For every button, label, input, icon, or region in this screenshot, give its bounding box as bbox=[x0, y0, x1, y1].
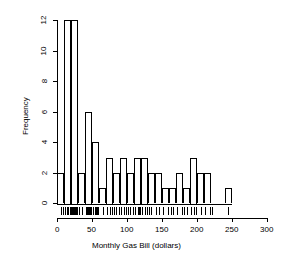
y-tick-10 bbox=[53, 51, 57, 52]
rug-tick bbox=[149, 207, 150, 215]
histogram-bar bbox=[162, 188, 169, 203]
rug-tick bbox=[228, 207, 229, 215]
x-axis-title: Monthly Gas Bill (dollars) bbox=[92, 242, 181, 250]
histogram-bar bbox=[64, 20, 71, 204]
rug-tick bbox=[210, 207, 211, 215]
histogram-bar bbox=[183, 188, 190, 203]
histogram-bar bbox=[197, 173, 204, 204]
histogram-bar bbox=[190, 158, 197, 204]
rug-tick bbox=[168, 207, 169, 215]
x-tick-label-300: 300 bbox=[260, 226, 273, 234]
histogram-bar bbox=[99, 188, 106, 203]
rug-tick bbox=[116, 207, 117, 215]
rug-tick bbox=[196, 207, 197, 215]
rug-tick bbox=[135, 207, 136, 215]
histogram-bar bbox=[127, 173, 134, 204]
rug-tick bbox=[205, 207, 206, 215]
x-tick-300 bbox=[267, 218, 268, 222]
rug-tick bbox=[151, 207, 152, 215]
rug-tick bbox=[79, 207, 80, 215]
histogram-bar bbox=[169, 188, 176, 203]
y-tick-label-8: 8 bbox=[41, 79, 49, 83]
rug-tick bbox=[182, 207, 183, 215]
histogram-bar bbox=[155, 173, 162, 204]
rug-tick bbox=[142, 207, 143, 215]
rug-tick bbox=[110, 207, 111, 215]
x-tick-label-150: 150 bbox=[155, 226, 168, 234]
histogram-bar bbox=[204, 173, 211, 204]
histogram-bar bbox=[120, 158, 127, 204]
y-tick-label-10: 10 bbox=[40, 47, 48, 56]
x-tick-label-100: 100 bbox=[120, 226, 133, 234]
x-tick-label-200: 200 bbox=[190, 226, 203, 234]
histogram-bar bbox=[225, 188, 232, 203]
x-tick-label-0: 0 bbox=[55, 226, 59, 234]
x-tick-label-50: 50 bbox=[87, 226, 96, 234]
rug-tick bbox=[133, 207, 134, 215]
histogram-bar bbox=[92, 142, 99, 203]
rug-tick bbox=[159, 207, 160, 215]
rug-tick bbox=[171, 207, 172, 215]
rug-tick bbox=[61, 207, 62, 215]
y-axis-title: Frequency bbox=[22, 97, 30, 135]
rug-tick bbox=[128, 207, 129, 215]
y-tick-label-2: 2 bbox=[41, 171, 49, 175]
rug-tick bbox=[91, 207, 92, 215]
rug-tick bbox=[156, 207, 157, 215]
y-tick-6 bbox=[53, 112, 57, 113]
x-tick-label-250: 250 bbox=[225, 226, 238, 234]
x-tick-50 bbox=[92, 218, 93, 222]
rug-tick bbox=[191, 207, 192, 215]
rug-tick bbox=[112, 207, 113, 215]
histogram-bar bbox=[85, 112, 92, 204]
rug-tick bbox=[184, 207, 185, 215]
histogram-bar bbox=[134, 158, 141, 204]
rug-tick bbox=[145, 207, 146, 215]
rug-tick bbox=[119, 207, 120, 215]
y-tick-label-6: 6 bbox=[41, 110, 49, 114]
y-tick-8 bbox=[53, 81, 57, 82]
rug-tick bbox=[107, 207, 108, 215]
x-tick-100 bbox=[127, 218, 128, 222]
rug-tick bbox=[194, 207, 195, 215]
histogram-bar bbox=[148, 173, 155, 204]
rug-tick bbox=[121, 207, 122, 215]
histogram-baseline bbox=[57, 204, 232, 205]
rug-tick bbox=[126, 207, 127, 215]
rug-tick bbox=[187, 207, 188, 215]
rug-tick bbox=[201, 207, 202, 215]
rug-tick bbox=[98, 207, 99, 215]
y-tick-label-12: 12 bbox=[40, 16, 48, 25]
y-tick-4 bbox=[53, 142, 57, 143]
rug-tick bbox=[163, 207, 164, 215]
histogram-chart: 0 2 4 6 8 10 12 Frequency 0 50 100 150 2… bbox=[0, 0, 285, 262]
histogram-bar bbox=[176, 173, 183, 204]
histogram-bar bbox=[113, 173, 120, 204]
x-tick-200 bbox=[197, 218, 198, 222]
rug-tick bbox=[63, 207, 64, 215]
rug-tick bbox=[130, 207, 131, 215]
rug-tick bbox=[147, 207, 148, 215]
rug-tick bbox=[103, 207, 104, 215]
x-tick-0 bbox=[57, 218, 58, 222]
y-tick-label-0: 0 bbox=[41, 201, 49, 205]
histogram-bar bbox=[78, 173, 85, 204]
rug-tick bbox=[82, 207, 83, 215]
y-tick-label-4: 4 bbox=[41, 140, 49, 144]
x-tick-250 bbox=[232, 218, 233, 222]
rug-tick bbox=[177, 207, 178, 215]
x-tick-150 bbox=[162, 218, 163, 222]
histogram-bar bbox=[141, 158, 148, 204]
rug-tick bbox=[77, 207, 78, 215]
histogram-bar bbox=[71, 20, 78, 204]
rug-tick bbox=[173, 207, 174, 215]
rug-tick bbox=[140, 207, 141, 215]
rug-tick bbox=[124, 207, 125, 215]
histogram-bar bbox=[57, 173, 64, 204]
histogram-bar bbox=[106, 158, 113, 204]
rug-tick bbox=[212, 207, 213, 215]
y-tick-12 bbox=[53, 20, 57, 21]
